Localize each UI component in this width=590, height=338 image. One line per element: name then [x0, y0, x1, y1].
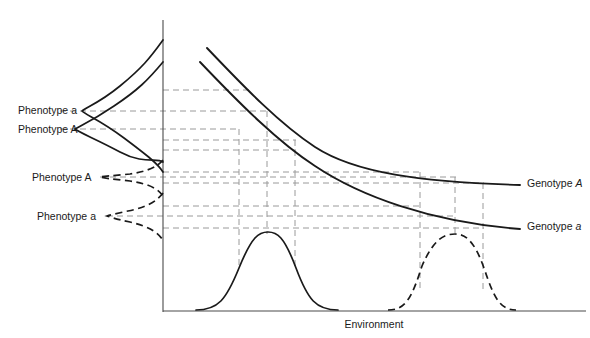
genotype-A-label-text: Genotype [527, 177, 573, 189]
phenotype-a-upper-label: Phenotype a [18, 104, 77, 116]
genotype-a-label: Genotypea [527, 220, 582, 232]
phenotype-a-env2-distribution [107, 193, 163, 240]
phenotype-A-env2-distribution [100, 160, 163, 196]
phenotype-A-lower-label: Phenotype A [32, 171, 92, 183]
genotype-curves-group [200, 48, 520, 229]
labels-group: Phenotype a Phenotype A Phenotype A Phen… [18, 104, 583, 330]
axes-group [163, 20, 586, 312]
environment-distributions-group [196, 232, 516, 310]
genotype-a-allele: a [576, 220, 582, 232]
phenotype-a-env1-distribution [82, 40, 163, 172]
genotype-A-label: GenotypeA [527, 177, 583, 189]
phenotype-A-upper-label: Phenotype A [18, 123, 78, 135]
phenotype-A-env1-distribution [75, 62, 163, 162]
reaction-norm-figure: Phenotype a Phenotype A Phenotype A Phen… [0, 0, 590, 338]
genotype-a-label-text: Genotype [527, 220, 573, 232]
phenotype-a-lower-label: Phenotype a [37, 210, 96, 222]
environment-1-distribution [196, 232, 338, 310]
x-axis-label: Environment [345, 318, 404, 330]
guide-lines-group [60, 90, 484, 290]
genotype-a-curve [200, 62, 520, 229]
environment-2-distribution [388, 234, 516, 310]
genotype-A-allele: A [575, 177, 583, 189]
reaction-norm-diagram: Phenotype a Phenotype A Phenotype A Phen… [0, 0, 590, 338]
